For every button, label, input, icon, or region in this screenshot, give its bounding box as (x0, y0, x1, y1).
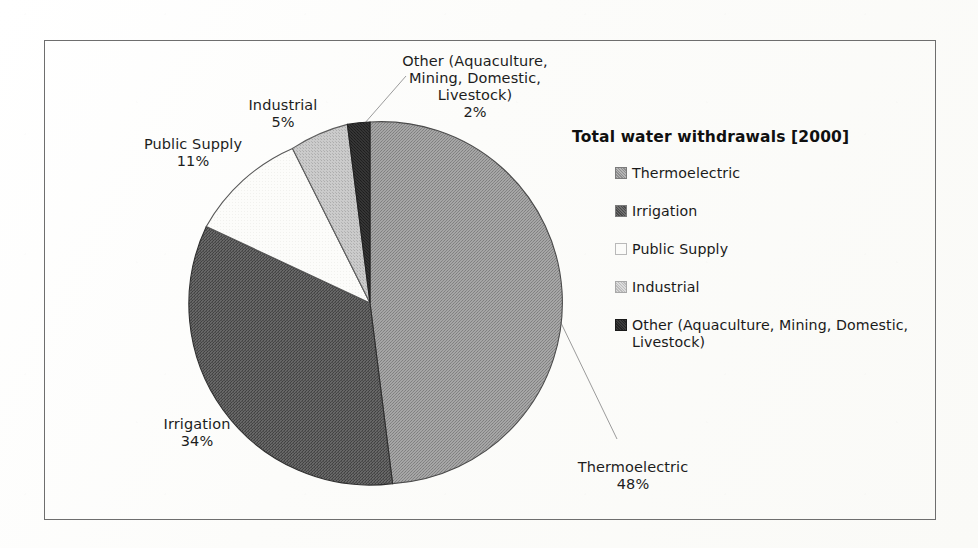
legend-swatch-irrigation-icon (615, 205, 627, 217)
legend-label-thermoelectric: Thermoelectric (632, 165, 740, 182)
legend-item-thermoelectric: Thermoelectric (615, 165, 922, 182)
pie-label-thermoelectric: Thermoelectric 48% (548, 442, 718, 510)
chart-legend: Total water withdrawals [2000] Thermoele… (572, 128, 922, 351)
pie-label-other-name: Other (Aquaculture, Mining, Domestic, Li… (402, 53, 548, 103)
pie-label-public-supply-name: Public Supply (144, 136, 242, 152)
legend-item-public-supply: Public Supply (615, 241, 922, 258)
pie-label-thermoelectric-name: Thermoelectric (578, 459, 689, 475)
legend-label-irrigation: Irrigation (632, 203, 697, 220)
pie-label-industrial-name: Industrial (248, 97, 317, 113)
legend-swatch-thermoelectric-icon (615, 167, 627, 179)
pie-label-other-pct: 2% (385, 104, 565, 121)
legend-swatch-industrial-icon (615, 281, 627, 293)
legend-label-other: Other (Aquaculture, Mining, Domestic, Li… (632, 317, 922, 351)
pie-label-irrigation-name: Irrigation (164, 416, 231, 432)
pie-label-other: Other (Aquaculture, Mining, Domestic, Li… (385, 36, 565, 138)
legend-label-industrial: Industrial (632, 279, 700, 296)
legend-label-public-supply: Public Supply (632, 241, 728, 258)
pie-label-public-supply: Public Supply 11% (118, 119, 268, 187)
legend-swatch-other-icon (615, 319, 627, 331)
pie-label-irrigation: Irrigation 34% (136, 399, 258, 467)
legend-item-other: Other (Aquaculture, Mining, Domestic, Li… (615, 317, 922, 351)
pie-label-thermoelectric-pct: 48% (548, 476, 718, 493)
legend-item-industrial: Industrial (615, 279, 922, 296)
pie-label-irrigation-pct: 34% (136, 433, 258, 450)
legend-item-irrigation: Irrigation (615, 203, 922, 220)
pie-label-public-supply-pct: 11% (118, 153, 268, 170)
legend-swatch-public-supply-icon (615, 243, 627, 255)
chart-title: Total water withdrawals [2000] (572, 128, 922, 146)
